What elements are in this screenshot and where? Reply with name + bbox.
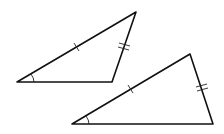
- triangle-1: [17, 12, 136, 82]
- triangle-1-single-tick-mark: [74, 43, 79, 51]
- triangle-2-angle-arc: [86, 116, 89, 124]
- triangle-2: [72, 54, 213, 124]
- triangle-1-angle-arc: [31, 74, 34, 82]
- triangles-diagram: [0, 0, 224, 134]
- triangle-2-double-tick-mark: [196, 84, 208, 91]
- triangle-2-outline: [72, 54, 213, 124]
